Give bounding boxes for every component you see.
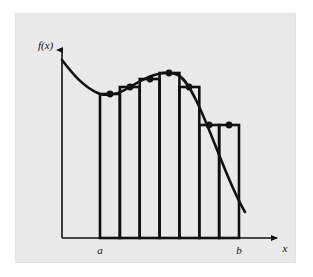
rectangle-3 — [140, 79, 160, 238]
sample-point-group — [107, 70, 233, 129]
sample-point-4 — [166, 70, 173, 77]
rectangle-1 — [100, 94, 120, 238]
riemann-sum-diagram: f(x) x a b — [0, 0, 313, 277]
x-axis-label: x — [282, 242, 288, 254]
rectangle-4 — [160, 73, 180, 238]
figure-root: f(x) x a b — [0, 0, 313, 277]
sample-point-1 — [107, 91, 114, 98]
sample-point-2 — [127, 84, 134, 91]
sample-point-6 — [206, 122, 213, 129]
tick-label-a: a — [97, 244, 103, 256]
tick-label-b: b — [236, 244, 242, 256]
rectangle-5 — [179, 87, 199, 238]
y-axis-label: f(x) — [38, 39, 54, 52]
rectangle-2 — [120, 87, 140, 238]
sample-point-7 — [226, 122, 233, 129]
rectangle-6 — [199, 125, 219, 238]
function-curve — [62, 60, 245, 212]
sample-point-3 — [147, 76, 154, 83]
sample-point-5 — [186, 84, 193, 91]
